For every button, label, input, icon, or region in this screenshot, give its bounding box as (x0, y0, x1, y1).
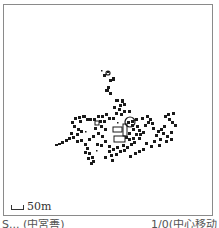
building (112, 77, 115, 81)
building (92, 135, 95, 138)
building (71, 121, 74, 124)
building (160, 128, 163, 131)
building (147, 121, 150, 124)
building (101, 115, 104, 118)
building (55, 144, 58, 146)
building (158, 144, 161, 147)
building (126, 146, 129, 149)
building (104, 140, 107, 143)
figure-caption: S... (中宮善) 1/0(中心移动 (2, 219, 217, 228)
building (133, 141, 136, 144)
building (165, 140, 168, 143)
building (112, 148, 115, 151)
building (123, 110, 126, 113)
building (141, 117, 144, 120)
building (88, 138, 91, 141)
building (84, 143, 87, 146)
building (96, 143, 99, 146)
building (138, 150, 141, 153)
outlined-building (113, 127, 122, 132)
building (108, 145, 111, 148)
building (162, 132, 165, 135)
building (100, 144, 103, 147)
building (86, 147, 89, 150)
building (111, 159, 114, 162)
building (74, 117, 77, 120)
building (61, 141, 64, 144)
building (58, 143, 61, 145)
building (104, 156, 107, 159)
building (168, 118, 171, 121)
building (138, 137, 141, 140)
building (115, 112, 118, 115)
building (73, 125, 76, 128)
building (146, 115, 149, 118)
building (128, 110, 131, 113)
building (170, 131, 173, 134)
building (94, 127, 97, 130)
building (119, 150, 122, 153)
building (139, 133, 142, 136)
building (84, 151, 87, 154)
outlined-buildings (95, 121, 127, 142)
building (88, 152, 91, 155)
building (132, 137, 135, 140)
building (128, 132, 131, 135)
building (104, 128, 107, 131)
building (100, 125, 103, 128)
building (105, 113, 108, 116)
building (149, 118, 152, 121)
building (77, 128, 80, 131)
building (166, 135, 169, 138)
building (134, 152, 137, 155)
building (123, 103, 126, 106)
building (151, 122, 154, 125)
building (131, 120, 134, 123)
building (130, 143, 133, 146)
building (105, 89, 109, 92)
outlined-building (95, 121, 99, 125)
building (144, 124, 147, 127)
building (103, 120, 106, 123)
building (163, 125, 166, 128)
building (129, 155, 132, 158)
building (86, 118, 89, 121)
building (167, 113, 170, 116)
caption-left: S... (中宮善) (2, 219, 65, 228)
building (119, 104, 122, 107)
building (170, 138, 173, 141)
building (122, 144, 125, 147)
building (65, 139, 68, 142)
building (115, 153, 118, 156)
building (142, 131, 145, 134)
building (109, 79, 112, 82)
building-footprint-map (0, 0, 219, 228)
scale-bar-icon (11, 205, 24, 210)
outlined-building (114, 136, 125, 142)
building (136, 125, 139, 128)
building (135, 133, 138, 136)
dot-marker-icon (96, 150, 98, 152)
building (171, 121, 174, 124)
building (128, 138, 131, 141)
building (82, 115, 86, 118)
building (112, 117, 115, 120)
building (110, 154, 113, 157)
building (174, 124, 177, 127)
building (120, 113, 123, 116)
dot-marker-icon (85, 131, 87, 133)
building (70, 132, 73, 135)
building (107, 86, 110, 89)
building (164, 115, 167, 118)
building (108, 117, 111, 120)
building (76, 133, 79, 136)
building (150, 145, 153, 148)
building-footprints (55, 71, 177, 165)
building (172, 112, 175, 115)
building (78, 116, 81, 119)
scale-bar-label: 50m (27, 201, 51, 213)
building (108, 150, 111, 153)
dot-marker-icon (101, 70, 103, 72)
building (101, 135, 104, 138)
building (132, 128, 135, 131)
